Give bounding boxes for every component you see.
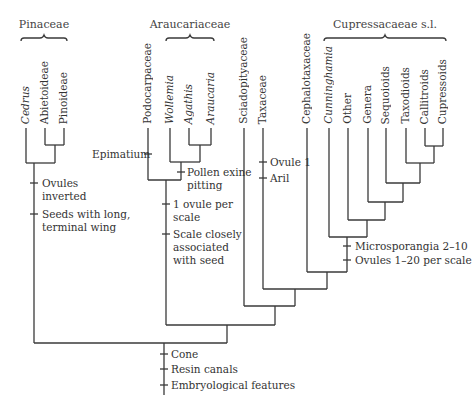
taxon-other: Other xyxy=(341,93,353,124)
taxon-agathis: Agathis xyxy=(182,84,194,124)
taxon-callitroids: Callitroids xyxy=(418,69,430,124)
cupressaceae-bracket xyxy=(324,35,446,41)
taxon-cephalotaxaceae: Cephalotaxaceae xyxy=(300,33,312,124)
char-epimatium: Epimatium xyxy=(92,148,150,161)
char-cone: Cone xyxy=(171,348,198,361)
char-aril: Aril xyxy=(270,172,289,185)
taxon-wollemia: Wollemia xyxy=(163,75,175,124)
group-label-araucariaceae: Araucariaceae xyxy=(150,18,231,31)
taxon-abietoideae: Abietoideae xyxy=(38,61,50,124)
group-label-cupressaceae: Cupressacaeae s.l. xyxy=(333,18,437,31)
taxon-genera: Genera xyxy=(361,85,373,124)
char-seeds-wing: Seeds with long, terminal wing xyxy=(42,208,130,234)
taxon-cunninghamia: Cunninghamia xyxy=(322,46,334,124)
araucariaceae-bracket xyxy=(166,35,214,41)
char-pollen-exine: Pollen exine pitting xyxy=(187,166,251,192)
taxon-sciadopityaceae: Sciadopityaceae xyxy=(237,37,249,124)
char-ovules-1-20: Ovules 1–20 per scale xyxy=(355,254,472,267)
group-label-pinaceae: Pinaceae xyxy=(19,18,69,31)
taxon-sequoioids: Sequoioids xyxy=(379,66,391,124)
char-ovule1: Ovule 1 xyxy=(270,156,311,169)
taxon-podocarpaceae: Podocarpaceae xyxy=(141,43,153,124)
taxon-taxaceae: Taxaceae xyxy=(256,75,268,124)
taxon-pinoideae: Pinoideae xyxy=(57,72,69,124)
char-one-ovule: 1 ovule per scale xyxy=(173,198,233,224)
taxon-araucaria: Araucaria xyxy=(204,72,216,124)
taxon-taxodioids: Taxodioids xyxy=(399,67,411,124)
char-resin-canals: Resin canals xyxy=(171,363,238,376)
taxon-cupressoids: Cupressoids xyxy=(436,59,448,124)
taxon-cedrus: Cedrus xyxy=(19,86,31,124)
char-scale-associated: Scale closely associated with seed xyxy=(173,228,242,267)
char-ovules-inverted: Ovules inverted xyxy=(42,177,86,203)
char-embryological: Embryological features xyxy=(171,379,295,392)
char-microsporangia: Microsporangia 2–10 xyxy=(355,240,468,253)
pinaceae-bracket xyxy=(21,35,67,41)
